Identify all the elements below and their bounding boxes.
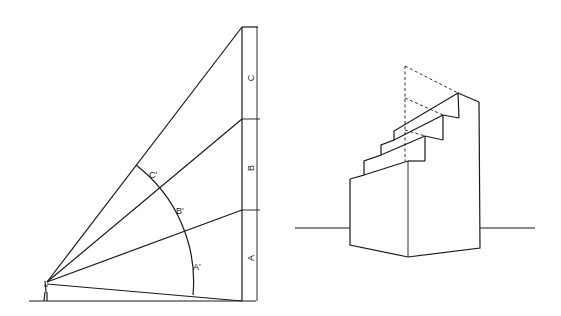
step4-tread: [443, 115, 459, 118]
diagram-canvas: C B A C' B' A': [0, 0, 561, 316]
stepped-block-figure: [295, 66, 535, 257]
label-C: C: [246, 74, 256, 81]
visual-angle-figure: C B A C' B' A': [29, 27, 260, 301]
step3-tread: [425, 136, 443, 140]
top-right-edge: [458, 93, 479, 102]
angle-arc: [136, 165, 194, 295]
label-B: B: [246, 165, 256, 171]
ray-top: [47, 27, 242, 282]
dashed-top: [405, 66, 458, 93]
dashed-mid: [405, 98, 443, 115]
label-A-prime: A': [193, 262, 201, 272]
step2-edge: [381, 136, 425, 155]
label-A: A: [246, 255, 256, 261]
box-outline: [350, 102, 480, 257]
label-B-prime: B': [176, 206, 184, 216]
step1-edge: [364, 161, 408, 175]
ray-bc: [47, 119, 242, 282]
step3-edge: [394, 115, 443, 140]
label-C-prime: C': [149, 170, 157, 180]
ray-bottom: [47, 284, 242, 301]
ray-ab: [47, 210, 242, 282]
